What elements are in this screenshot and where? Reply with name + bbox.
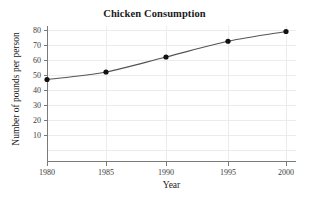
data-series	[47, 26, 296, 161]
data-point	[44, 77, 49, 82]
y-axis-tick-label: 80	[19, 26, 41, 35]
y-axis-tick-label: 10	[19, 131, 41, 140]
x-axis-tick	[106, 162, 107, 166]
data-point	[283, 29, 288, 34]
chart-title: Chicken Consumption	[0, 8, 309, 19]
x-axis-tick-label: 1995	[208, 168, 248, 177]
x-axis-tick-label: 1985	[86, 168, 126, 177]
x-axis-tick-label: 1980	[27, 168, 67, 177]
y-axis-tick-label: 20	[19, 116, 41, 125]
x-axis-label: Year	[47, 180, 296, 190]
y-axis-tick-label: 50	[19, 71, 41, 80]
x-axis-tick	[228, 162, 229, 166]
y-axis-label: Number of pounds per person	[11, 19, 21, 159]
y-axis-tick-label: 30	[19, 101, 41, 110]
x-axis-tick	[47, 162, 48, 166]
x-axis-tick-label: 2000	[266, 168, 306, 177]
data-point	[163, 54, 168, 59]
y-axis-tick-label: 70	[19, 41, 41, 50]
y-axis-tick-label: 60	[19, 56, 41, 65]
data-point	[225, 39, 230, 44]
x-axis-tick	[286, 162, 287, 166]
chart-screenshot: Chicken Consumption 80 70 60 50 40 30 20…	[0, 0, 309, 206]
data-point	[103, 69, 108, 74]
x-axis-tick-label: 1990	[146, 168, 186, 177]
x-axis-tick	[166, 162, 167, 166]
y-axis-tick-label: 40	[19, 86, 41, 95]
x-axis-line	[47, 161, 296, 162]
